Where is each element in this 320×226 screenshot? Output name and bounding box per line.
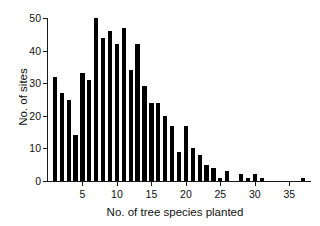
x-tick-label: 5 (69, 188, 95, 200)
x-axis-line (47, 181, 311, 182)
bar (156, 103, 160, 181)
bar (73, 135, 77, 181)
y-tick-label: 40 (1, 46, 41, 56)
bar (191, 148, 195, 181)
x-tick-mark (289, 182, 290, 186)
y-tick-label-wrap: 50 (0, 13, 41, 23)
bar (177, 152, 181, 181)
x-tick-label-wrap: 10 (104, 188, 130, 200)
x-tick-label-wrap: 30 (242, 188, 268, 200)
bar (101, 38, 105, 181)
y-tick-mark (43, 148, 47, 149)
y-tick-label-wrap: 10 (0, 143, 41, 153)
bar (218, 178, 222, 181)
y-tick-label-wrap: 30 (0, 78, 41, 88)
x-tick-label-wrap: 15 (138, 188, 164, 200)
y-tick-label: 30 (1, 78, 41, 88)
bar (142, 86, 146, 181)
bar (67, 100, 71, 182)
x-tick-mark (186, 182, 187, 186)
x-tick-mark (151, 182, 152, 186)
bar (170, 126, 174, 181)
bar (122, 28, 126, 181)
bar (253, 174, 257, 181)
y-tick-mark (43, 18, 47, 19)
y-tick-label: 0 (1, 176, 41, 186)
bar (80, 73, 84, 181)
bar (115, 44, 119, 181)
bar (53, 77, 57, 181)
x-tick-label: 25 (207, 188, 233, 200)
bar (246, 178, 250, 181)
x-axis-label: No. of tree species planted (40, 205, 310, 219)
x-tick-label-wrap: 20 (173, 188, 199, 200)
y-axis-label: No. of sites (14, 2, 32, 192)
bar (94, 18, 98, 181)
y-tick-label: 50 (1, 13, 41, 23)
bar (204, 165, 208, 181)
x-tick-mark (255, 182, 256, 186)
bar (198, 155, 202, 181)
bar (184, 126, 188, 181)
bar-series (48, 18, 310, 181)
bar (87, 80, 91, 181)
bar (60, 93, 64, 181)
x-tick-label-wrap: 35 (276, 188, 302, 200)
bar (108, 31, 112, 181)
bar (260, 178, 264, 181)
bar (211, 168, 215, 181)
bar (135, 44, 139, 181)
x-tick-label: 10 (104, 188, 130, 200)
x-tick-label-wrap: 5 (69, 188, 95, 200)
bar (129, 70, 133, 181)
x-tick-label-wrap: 25 (207, 188, 233, 200)
x-tick-label: 30 (242, 188, 268, 200)
x-tick-mark (220, 182, 221, 186)
y-tick-label: 10 (1, 143, 41, 153)
x-tick-mark (117, 182, 118, 186)
y-tick-mark (43, 181, 47, 182)
y-tick-mark (43, 116, 47, 117)
y-tick-label: 20 (1, 111, 41, 121)
bar (239, 174, 243, 181)
x-tick-mark (82, 182, 83, 186)
x-tick-label: 35 (276, 188, 302, 200)
y-tick-label-wrap: 20 (0, 111, 41, 121)
bar (163, 116, 167, 181)
y-tick-label-wrap: 40 (0, 46, 41, 56)
x-tick-label: 15 (138, 188, 164, 200)
y-tick-mark (43, 51, 47, 52)
y-tick-label-wrap: 0 (0, 176, 41, 186)
bar (225, 171, 229, 181)
bar (149, 103, 153, 181)
bar (301, 178, 305, 181)
y-tick-mark (43, 83, 47, 84)
histogram-figure: No. of sites 01020304050 5101520253035 N… (0, 0, 320, 226)
x-tick-label: 20 (173, 188, 199, 200)
